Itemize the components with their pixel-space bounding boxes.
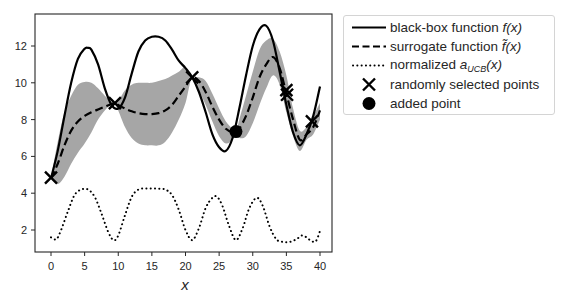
legend-item-black-box: black-box function f(x) xyxy=(344,18,554,37)
confidence-band-area xyxy=(51,38,320,184)
y-tick-label: 2 xyxy=(21,224,27,236)
legend-item-surrogate: surrogate function f̃(x) xyxy=(344,37,554,56)
x-tick-label: 30 xyxy=(247,260,259,272)
x-tick-label: 5 xyxy=(82,260,88,272)
solid-line-icon xyxy=(352,18,386,37)
x-axis-ticks: 0510152025303540 xyxy=(48,252,326,272)
y-tick-label: 4 xyxy=(21,187,27,199)
confidence-band xyxy=(51,38,320,184)
acquisition-line xyxy=(51,189,320,243)
y-tick-label: 10 xyxy=(15,77,27,89)
dotted-line-icon xyxy=(352,56,386,75)
y-tick-label: 8 xyxy=(21,114,27,126)
dashed-line-icon xyxy=(352,37,386,56)
x-axis-label: x xyxy=(180,276,189,293)
y-tick-label: 12 xyxy=(15,40,27,52)
y-axis-ticks: 24681012 xyxy=(15,40,35,236)
legend: black-box function f(x) surrogate functi… xyxy=(343,15,555,115)
legend-item-acquisition: normalized aUCB(x) xyxy=(344,56,554,75)
circle-marker-icon xyxy=(352,94,386,113)
x-tick-label: 15 xyxy=(146,260,158,272)
x-tick-label: 10 xyxy=(112,260,124,272)
legend-label: surrogate function f̃(x) xyxy=(390,39,521,54)
x-tick-label: 20 xyxy=(179,260,191,272)
legend-label: black-box function f(x) xyxy=(390,20,522,35)
legend-item-random-points: randomly selected points xyxy=(344,75,554,94)
legend-label: added point xyxy=(390,96,461,111)
x-marker-icon xyxy=(352,75,386,94)
x-tick-label: 0 xyxy=(48,260,54,272)
legend-label: randomly selected points xyxy=(390,77,539,92)
legend-label: normalized aUCB(x) xyxy=(390,57,502,74)
x-tick-label: 35 xyxy=(280,260,292,272)
x-tick-label: 40 xyxy=(314,260,326,272)
y-tick-label: 6 xyxy=(21,150,27,162)
x-tick-label: 25 xyxy=(213,260,225,272)
circle-marker-icon xyxy=(229,125,242,138)
legend-item-added-point: added point xyxy=(344,94,554,113)
